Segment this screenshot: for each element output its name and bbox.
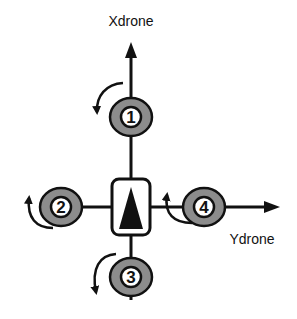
motor-3: 3 bbox=[95, 254, 152, 296]
y-axis-arrow-icon bbox=[264, 201, 280, 213]
y-axis-label: Ydrone bbox=[229, 231, 274, 247]
x-axis-arrow-icon bbox=[125, 42, 137, 58]
motor-3-label: 3 bbox=[126, 268, 135, 287]
motor-2-label: 2 bbox=[56, 198, 65, 217]
motor-2: 2 bbox=[29, 188, 82, 228]
quadrotor-diagram: Xdrone Ydrone 1 2 bbox=[0, 0, 297, 319]
motor-4-label: 4 bbox=[199, 198, 209, 217]
drone-body bbox=[112, 179, 150, 235]
x-axis-label: Xdrone bbox=[108, 13, 153, 29]
motor-1: 1 bbox=[97, 83, 152, 136]
motor-1-label: 1 bbox=[126, 108, 135, 127]
